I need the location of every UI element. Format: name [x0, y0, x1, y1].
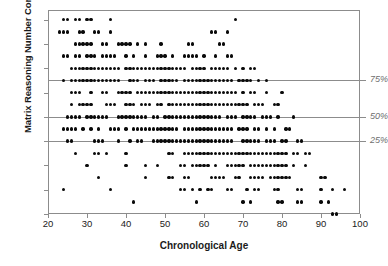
data-point [167, 115, 170, 118]
figure-caption [30, 258, 360, 266]
data-point [74, 115, 77, 118]
data-point [226, 152, 229, 155]
data-point [269, 152, 272, 155]
data-point [245, 115, 248, 118]
data-point [124, 67, 127, 70]
y-axis-title: Matrix Reasoning Number Correct [22, 0, 33, 143]
data-point [300, 139, 303, 142]
data-point [198, 139, 201, 142]
data-point [273, 164, 276, 167]
data-point [140, 127, 143, 130]
data-point [230, 115, 233, 118]
data-point [163, 115, 166, 118]
data-point [124, 115, 127, 118]
data-point [78, 54, 81, 57]
data-point [109, 127, 112, 130]
data-point [265, 152, 268, 155]
data-point [319, 176, 322, 179]
data-point [191, 42, 194, 45]
data-point [120, 91, 123, 94]
data-point [70, 115, 73, 118]
data-point [276, 115, 279, 118]
data-point [128, 67, 131, 70]
data-point [273, 127, 276, 130]
data-point [276, 200, 279, 203]
x-axis-tick-label-text: 100 [352, 218, 368, 229]
data-point [152, 139, 155, 142]
data-point [214, 30, 217, 33]
data-point [226, 139, 229, 142]
data-point [202, 54, 205, 57]
data-point [284, 164, 287, 167]
data-point [156, 127, 159, 130]
data-point [117, 127, 120, 130]
data-point [167, 67, 170, 70]
data-point [195, 115, 198, 118]
data-point [128, 42, 131, 45]
data-point [89, 67, 92, 70]
data-point [167, 139, 170, 142]
data-point [62, 30, 65, 33]
data-point [191, 164, 194, 167]
data-point [101, 115, 104, 118]
data-point [202, 79, 205, 82]
data-point [66, 139, 69, 142]
x-axis-tick-label-text: 30 [82, 218, 93, 229]
data-point [280, 152, 283, 155]
data-point [245, 79, 248, 82]
data-point [198, 67, 201, 70]
data-point [234, 115, 237, 118]
data-point [304, 152, 307, 155]
data-point [117, 67, 120, 70]
data-point [198, 115, 201, 118]
data-point [97, 30, 100, 33]
data-point [265, 115, 268, 118]
data-point [241, 79, 244, 82]
y-axis-tick-mark [44, 93, 48, 94]
data-point [202, 91, 205, 94]
data-point [191, 79, 194, 82]
data-point [206, 188, 209, 191]
data-point [198, 164, 201, 167]
data-point [128, 103, 131, 106]
data-point [78, 42, 81, 45]
data-point [245, 139, 248, 142]
data-point [128, 139, 131, 142]
data-point [159, 54, 162, 57]
data-point [74, 79, 77, 82]
data-point [117, 79, 120, 82]
data-point [198, 79, 201, 82]
data-point [191, 152, 194, 155]
data-point [187, 152, 190, 155]
percentile-reference-label: 25% [370, 135, 388, 145]
data-point [222, 42, 225, 45]
data-point [120, 42, 123, 45]
data-point [265, 127, 268, 130]
data-point [78, 30, 81, 33]
data-point [81, 30, 84, 33]
x-axis-tick-mark [360, 214, 361, 218]
data-point [148, 127, 151, 130]
data-point [241, 67, 244, 70]
data-point [156, 139, 159, 142]
data-point [113, 127, 116, 130]
data-point [195, 164, 198, 167]
data-point [167, 103, 170, 106]
data-point [66, 30, 69, 33]
data-point [292, 115, 295, 118]
data-point [70, 127, 73, 130]
data-point [144, 54, 147, 57]
data-point [167, 176, 170, 179]
data-point [167, 152, 170, 155]
data-point [156, 54, 159, 57]
data-point [113, 54, 116, 57]
data-point [74, 127, 77, 130]
data-point [276, 152, 279, 155]
data-point [156, 164, 159, 167]
data-point [167, 127, 170, 130]
data-point [202, 164, 205, 167]
data-point [81, 67, 84, 70]
data-point [81, 42, 84, 45]
data-point [245, 152, 248, 155]
data-point [81, 127, 84, 130]
